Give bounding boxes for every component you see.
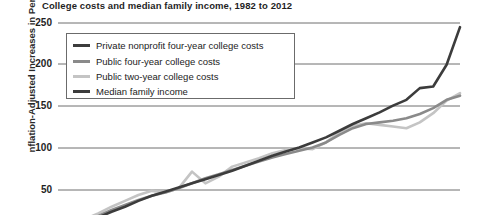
legend-item-public-two-year: Public two-year college costs [73, 68, 219, 84]
legend-swatch-public-two-year [73, 75, 90, 78]
legend-label-public-four-year: Public four-year college costs [96, 56, 220, 67]
legend-swatch-private-nonprofit-four-year [73, 44, 90, 47]
legend-item-private-nonprofit-four-year: Private nonprofit four-year college cost… [73, 37, 263, 53]
legend-label-median-family-income: Median family income [96, 86, 188, 97]
legend-label-public-two-year: Public two-year college costs [96, 71, 219, 82]
legend-item-median-family-income: Median family income [73, 83, 188, 99]
chart-screenshot: College costs and median family income, … [0, 0, 477, 215]
legend-swatch-median-family-income [73, 90, 90, 93]
legend-swatch-public-four-year [73, 60, 90, 63]
series-line-public-four-year-college-costs [58, 96, 460, 215]
legend: Private nonprofit four-year college cost… [66, 33, 295, 99]
series-line-public-two-year-college-costs [58, 93, 460, 215]
legend-label-private-nonprofit-four-year: Private nonprofit four-year college cost… [96, 40, 263, 51]
legend-item-public-four-year: Public four-year college costs [73, 53, 220, 69]
